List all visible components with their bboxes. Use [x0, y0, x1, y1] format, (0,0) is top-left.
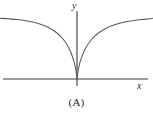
y-axis-label: y [72, 1, 76, 11]
x-axis-label: x [137, 81, 141, 91]
figure-caption: (A) [0, 96, 153, 108]
figure-container: y x (A) [0, 0, 153, 120]
